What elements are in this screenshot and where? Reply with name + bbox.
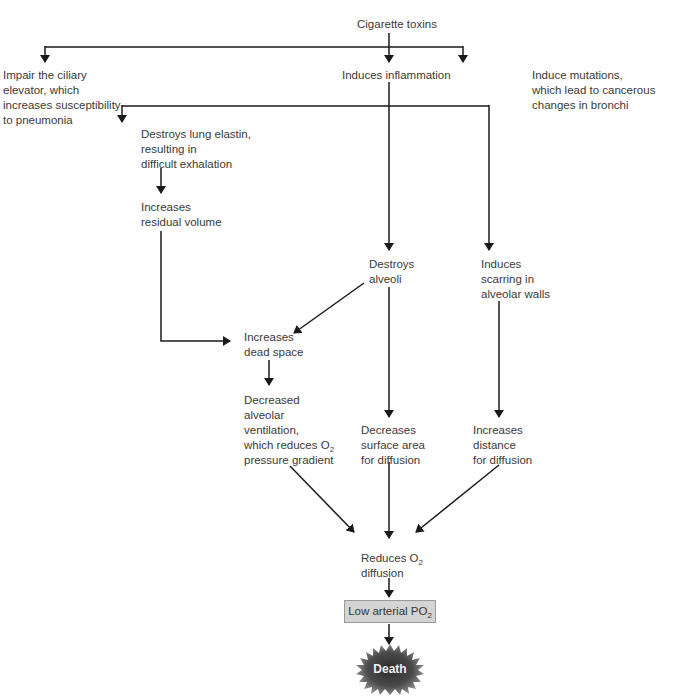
- node-impair-ciliary: Impair the ciliary elevator, which incre…: [3, 68, 121, 128]
- node-residual-volume: Increases residual volume: [141, 200, 222, 230]
- low-po2-subscript: 2: [427, 611, 431, 620]
- node-decreased-ventilation: Decreased alveolar ventilation, which re…: [244, 393, 334, 468]
- death-label: Death: [355, 643, 425, 695]
- node-reduces-o2: Reduces O2diffusion: [361, 551, 423, 581]
- node-death: Death: [355, 643, 425, 695]
- reduces-suffix: diffusion: [361, 567, 404, 579]
- node-induces-scarring: Induces scarring in alveolar walls: [481, 257, 550, 302]
- reduces-subscript: 2: [419, 558, 423, 567]
- low-po2-text: Low arterial PO: [348, 605, 427, 617]
- ventilation-text-a: Decreased alveolar ventilation, which re…: [244, 394, 330, 451]
- node-dead-space: Increases dead space: [244, 330, 303, 360]
- ventilation-subscript: 2: [330, 445, 334, 454]
- node-cigarette-toxins: Cigarette toxins: [357, 17, 437, 32]
- ventilation-text-b: pressure gradient: [244, 454, 334, 466]
- diagram-canvas: Cigarette toxins Impair the ciliary elev…: [0, 0, 687, 696]
- node-destroys-elastin: Destroys lung elastin, resulting in diff…: [141, 127, 251, 172]
- node-surface-area: Decreases surface area for diffusion: [361, 423, 425, 468]
- node-induce-mutations: Induce mutations, which lead to cancerou…: [532, 68, 655, 113]
- reduces-text: Reduces O: [361, 552, 419, 564]
- node-induces-inflammation: Induces inflammation: [342, 68, 451, 83]
- node-destroys-alveoli: Destroys alveoli: [369, 257, 414, 287]
- node-increases-distance: Increases distance for diffusion: [473, 423, 532, 468]
- node-low-arterial-po2: Low arterial PO2: [344, 600, 436, 623]
